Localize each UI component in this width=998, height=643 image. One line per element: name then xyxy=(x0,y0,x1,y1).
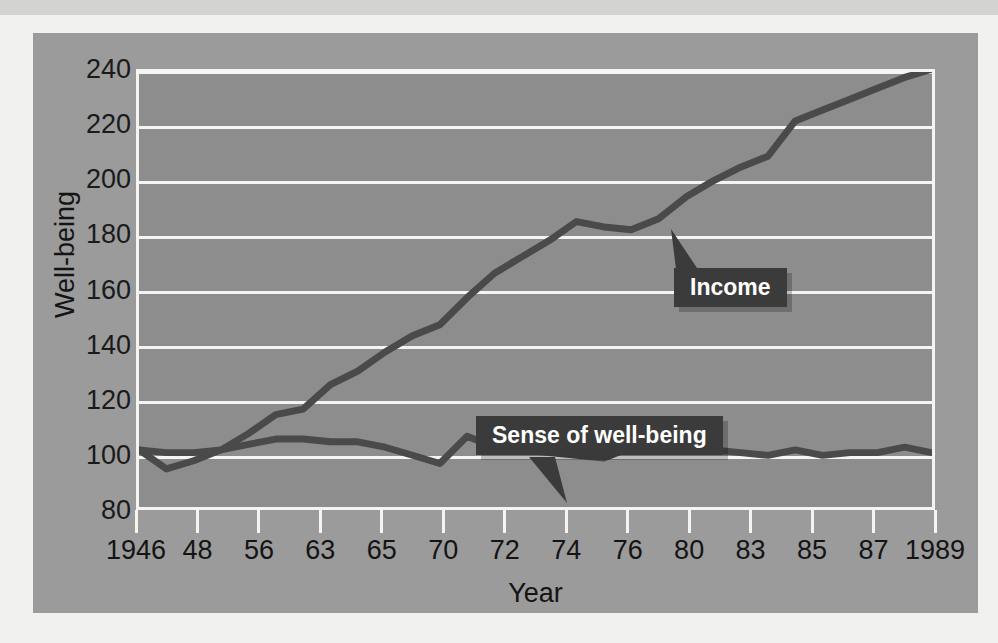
y-tick-180: 180 xyxy=(67,221,131,248)
x-axis-tick-marks xyxy=(136,510,935,533)
x-tickmark-65 xyxy=(380,510,383,533)
x-tick-48: 48 xyxy=(182,537,212,564)
x-axis-tick-labels: 19464856636570727476808385871989 xyxy=(136,537,935,575)
x-tickmark-87 xyxy=(872,510,875,533)
y-tick-100: 100 xyxy=(67,442,131,469)
x-axis-title: Year xyxy=(136,578,935,609)
series-line-income xyxy=(139,72,932,469)
x-tick-85: 85 xyxy=(797,537,827,564)
y-axis-tick-labels: 24022020018016014012010080 xyxy=(55,69,131,510)
wellbeing-callout-leader xyxy=(529,457,589,503)
x-tick-1989: 1989 xyxy=(905,537,965,564)
x-tickmark-76 xyxy=(626,510,629,533)
y-tick-140: 140 xyxy=(67,332,131,359)
x-tick-76: 76 xyxy=(613,537,643,564)
x-tickmark-72 xyxy=(503,510,506,533)
x-tickmark-85 xyxy=(811,510,814,533)
income-callout-leader xyxy=(669,229,729,277)
x-tick-83: 83 xyxy=(736,537,766,564)
x-tickmark-80 xyxy=(688,510,691,533)
x-tickmark-48 xyxy=(196,510,199,533)
x-tickmark-70 xyxy=(442,510,445,533)
x-tick-87: 87 xyxy=(859,537,889,564)
y-tick-220: 220 xyxy=(67,111,131,138)
x-tick-56: 56 xyxy=(244,537,274,564)
x-tick-65: 65 xyxy=(367,537,397,564)
x-tickmark-56 xyxy=(257,510,260,533)
x-tick-1946: 1946 xyxy=(106,537,166,564)
x-tick-72: 72 xyxy=(490,537,520,564)
y-tick-120: 120 xyxy=(67,387,131,414)
x-tickmark-63 xyxy=(319,510,322,533)
x-tickmark-83 xyxy=(749,510,752,533)
x-tick-74: 74 xyxy=(551,537,581,564)
x-tick-80: 80 xyxy=(674,537,704,564)
page-top-band xyxy=(0,0,998,15)
y-tick-200: 200 xyxy=(67,166,131,193)
y-tick-160: 160 xyxy=(67,277,131,304)
y-tick-80: 80 xyxy=(67,497,131,524)
x-tickmark-74 xyxy=(565,510,568,533)
x-tick-70: 70 xyxy=(428,537,458,564)
y-tick-240: 240 xyxy=(67,56,131,83)
x-tickmark-1946 xyxy=(135,510,138,533)
x-tickmark-1989 xyxy=(934,510,937,533)
x-tick-63: 63 xyxy=(305,537,335,564)
wellbeing-callout-label: Sense of well-being xyxy=(476,416,723,455)
chart-card: Well-being 24022020018016014012010080 19… xyxy=(33,33,978,613)
